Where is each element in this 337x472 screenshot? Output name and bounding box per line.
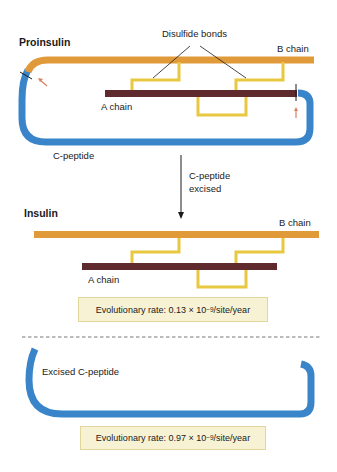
proinsulin-a-chain-label: A chain	[101, 102, 132, 112]
transition-arrowhead-icon	[178, 212, 184, 219]
insulin-rate-suffix: /site/year	[214, 305, 251, 315]
insulin-b-chain-label: B chain	[279, 218, 311, 228]
insulin-rate-prefix: Evolutionary rate: 0.13 × 10	[96, 305, 206, 315]
insulin-title: Insulin	[24, 208, 58, 219]
insulin-a-chain-label: A chain	[88, 275, 119, 285]
diagram-canvas	[0, 0, 337, 472]
proinsulin-b-chain-label: B chain	[277, 44, 309, 54]
c-peptide-label: C-peptide	[53, 151, 94, 161]
proinsulin-disulfide-bond-2	[236, 62, 283, 91]
c-peptide-rate-box: Evolutionary rate: 0.97 × 10−9/site/year	[80, 426, 266, 450]
disulfide-bonds-label: Disulfide bonds	[162, 29, 227, 39]
excised-c-peptide-label: Excised C-peptide	[42, 367, 119, 377]
transition-label-line2: excised	[189, 184, 221, 194]
proinsulin-disulfide-bond-1	[132, 62, 179, 91]
proinsulin-title: Proinsulin	[19, 37, 70, 48]
c-peptide-rate-prefix: Evolutionary rate: 0.97 × 10	[96, 433, 206, 443]
c-peptide-rate-suffix: /site/year	[214, 433, 251, 443]
insulin-intrachain-bond	[198, 270, 246, 287]
insulin-disulfide-bond-2	[236, 238, 283, 263]
excised-c-peptide	[29, 349, 311, 414]
insulin-disulfide-bond-1	[132, 238, 179, 263]
proinsulin-intrachain-bond	[198, 96, 246, 115]
proinsulin-b-chain	[28, 60, 314, 72]
proinsulin-a-chain	[105, 90, 297, 97]
cleave-arrowhead-right-icon	[294, 107, 298, 111]
insulin-a-chain	[82, 263, 277, 270]
insulin-b-chain	[34, 231, 319, 238]
insulin-rate-box: Evolutionary rate: 0.13 × 10−9/site/year	[78, 297, 268, 322]
transition-label-line1: C-peptide	[189, 171, 230, 181]
